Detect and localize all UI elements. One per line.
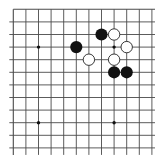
go-board (0, 0, 155, 163)
black-stone-icon (108, 66, 120, 78)
star-point-icon (37, 121, 40, 124)
black-stone-icon (121, 66, 133, 78)
star-point-icon (112, 121, 115, 124)
star-point-icon (112, 45, 115, 48)
white-stone-icon (83, 54, 94, 65)
white-stone-icon (108, 54, 119, 65)
white-stone-icon (121, 41, 132, 52)
white-stone-icon (108, 29, 119, 40)
grid-lines (9, 9, 155, 155)
black-stone-icon (95, 28, 107, 40)
go-board-grid (0, 0, 155, 163)
black-stone-icon (70, 41, 82, 53)
star-point-icon (37, 45, 40, 48)
